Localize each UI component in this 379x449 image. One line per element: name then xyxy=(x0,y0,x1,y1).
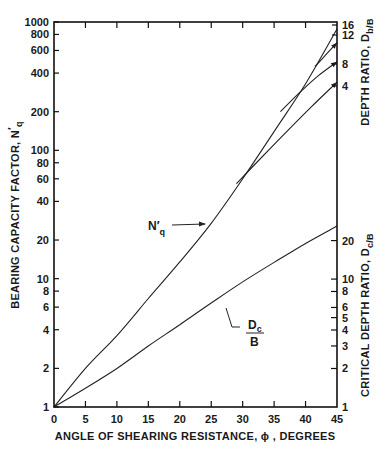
right-top-axis-title: DEPTH RATIO, Db/B xyxy=(359,18,375,126)
dc-label-numerator: Dc xyxy=(248,318,262,334)
y-tick-label: 100 xyxy=(31,144,49,156)
y-tick-label: 600 xyxy=(31,44,49,56)
curve-db-b-4 xyxy=(236,82,337,184)
bearing-capacity-chart: 051015202530354045 124681020406080100200… xyxy=(0,0,379,449)
right-bottom-tick-label: 3 xyxy=(342,340,348,352)
x-tick-label: 35 xyxy=(268,413,280,425)
dc-annotation: Dc B xyxy=(226,308,264,349)
right-top-tick-label: 8 xyxy=(342,58,348,70)
y-tick-label: 6 xyxy=(43,301,49,313)
y-tick-label: 40 xyxy=(37,195,49,207)
right-bottom-tick-label: 10 xyxy=(342,273,354,285)
dc-label-denominator: B xyxy=(250,335,259,349)
nq-label: N′q xyxy=(148,219,165,237)
plot-frame xyxy=(54,22,337,407)
y-tick-label: 20 xyxy=(37,234,49,246)
x-tick-label: 15 xyxy=(142,413,154,425)
x-tick-label: 30 xyxy=(237,413,249,425)
curve-dc-b xyxy=(54,226,337,407)
x-tick-label: 20 xyxy=(174,413,186,425)
curve-db-b-8 xyxy=(280,62,337,112)
y-axis-title: BEARING CAPACITY FACTOR, N′q xyxy=(6,121,24,309)
y-tick-label: 10 xyxy=(37,273,49,285)
y-tick-label: 60 xyxy=(37,173,49,185)
y-tick-label: 400 xyxy=(31,67,49,79)
right-top-tick-label: 4 xyxy=(342,80,349,92)
x-tick-label: 40 xyxy=(299,413,311,425)
y-tick-label: 800 xyxy=(31,28,49,40)
right-bottom-tick-label: 4 xyxy=(342,324,349,336)
x-axis-ticks: 051015202530354045 xyxy=(51,22,343,425)
nq-arrow-head-icon xyxy=(199,222,206,227)
right-bottom-axis-ticks: 20108654321 xyxy=(331,235,354,413)
right-bottom-axis-title: CRITICAL DEPTH RATIO, Dc/B xyxy=(359,233,375,397)
y-tick-label: 1 xyxy=(43,401,49,413)
x-tick-label: 45 xyxy=(331,413,343,425)
right-top-tick-label: 12 xyxy=(342,29,354,41)
right-top-axis-ticks: 161284 xyxy=(332,19,354,92)
y-tick-label: 8 xyxy=(43,285,49,297)
right-bottom-tick-label: 5 xyxy=(342,312,348,324)
curve-n-q-db-b-16- xyxy=(54,29,337,407)
right-bottom-tick-label: 2 xyxy=(342,362,348,374)
right-bottom-tick-label: 1 xyxy=(342,401,348,413)
x-tick-label: 0 xyxy=(51,413,57,425)
dc-leader-line xyxy=(226,308,240,327)
right-bottom-tick-label: 8 xyxy=(342,285,348,297)
y-tick-label: 80 xyxy=(37,157,49,169)
y-tick-label: 2 xyxy=(43,362,49,374)
nq-annotation: N′q xyxy=(148,219,206,237)
x-tick-label: 10 xyxy=(111,413,123,425)
x-tick-label: 25 xyxy=(205,413,217,425)
x-tick-label: 5 xyxy=(82,413,88,425)
x-axis-title: ANGLE OF SHEARING RESISTANCE, ϕ , DEGREE… xyxy=(55,430,336,442)
y-tick-label: 1000 xyxy=(25,16,49,28)
right-bottom-tick-label: 20 xyxy=(342,235,354,247)
y-tick-label: 4 xyxy=(43,324,50,336)
chart-curves xyxy=(54,29,337,407)
y-tick-label: 200 xyxy=(31,106,49,118)
